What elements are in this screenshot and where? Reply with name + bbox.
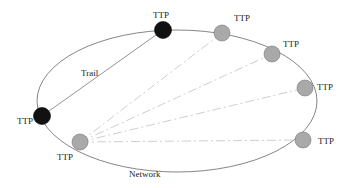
ttp-label-gray-2: TTP — [283, 40, 299, 49]
dashed-link-n3 — [80, 54, 272, 142]
ttp-node-gray-source[interactable] — [72, 134, 88, 150]
ttp-node-black-left[interactable] — [34, 108, 51, 125]
network-label: Network — [129, 170, 161, 179]
network-diagram: TTP TTP TTP TTP TTP TTP TTP Trail Networ… — [0, 0, 354, 188]
dashed-link-n4 — [80, 88, 305, 142]
dashed-link-n5 — [80, 140, 303, 142]
ttp-label-black-top: TTP — [153, 11, 169, 20]
nodes — [34, 22, 314, 151]
ttp-node-gray-1[interactable] — [214, 25, 230, 41]
trail-label: Trail — [81, 69, 98, 78]
ttp-label-gray-source: TTP — [57, 153, 73, 162]
ttp-node-gray-2[interactable] — [264, 46, 280, 62]
ttp-label-gray-1: TTP — [234, 14, 250, 23]
dashed-link-n2 — [80, 33, 222, 142]
ttp-label-black-left: TTP — [17, 117, 33, 126]
diagram-svg — [0, 0, 354, 188]
ttp-node-black-top[interactable] — [155, 22, 172, 39]
ttp-label-gray-4: TTP — [318, 137, 334, 146]
ttp-node-gray-3[interactable] — [297, 80, 313, 96]
ttp-node-gray-4[interactable] — [295, 132, 311, 148]
ttp-label-gray-3: TTP — [317, 83, 333, 92]
trail-line — [42, 30, 163, 116]
